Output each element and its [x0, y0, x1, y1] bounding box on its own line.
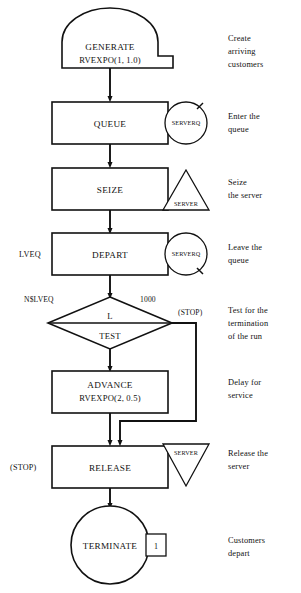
serverq-label-depart: SERVERQ	[172, 250, 201, 257]
test-exit-label: (STOP)	[178, 308, 203, 317]
block-depart[interactable]: DEPART	[52, 233, 168, 275]
advance-name: ADVANCE	[87, 380, 133, 390]
annotation-advance: Delay for service	[228, 378, 261, 400]
annotation-depart-line1: Leave the	[228, 243, 262, 252]
server-label-seize: SERVER	[174, 200, 199, 207]
annotation-queue-line1: Enter the	[228, 112, 260, 121]
test-right-operand: 1000	[140, 295, 156, 304]
block-test[interactable]: L TEST	[48, 297, 172, 349]
test-relation: L	[107, 311, 112, 321]
annotation-terminate-line2: depart	[228, 549, 250, 558]
block-release[interactable]: RELEASE	[52, 446, 168, 488]
annotation-generate-line2: arriving	[228, 47, 256, 56]
queue-name: QUEUE	[94, 119, 127, 129]
flowchart-canvas: GENERATE RVEXPO(1, 1.0) QUEUE SERVERQ SE…	[0, 0, 301, 593]
annotation-terminate: Customers depart	[228, 536, 265, 558]
advance-operands: RVEXPO(2, 0.5)	[79, 393, 141, 403]
seize-name: SEIZE	[97, 185, 123, 195]
entity-seize-server: SERVER	[163, 170, 209, 210]
block-advance[interactable]: ADVANCE RVEXPO(2, 0.5)	[52, 371, 168, 413]
annotation-seize-line1: Seize	[228, 178, 247, 187]
block-generate[interactable]: GENERATE RVEXPO(1, 1.0)	[62, 8, 173, 68]
server-label-release: SERVER	[174, 449, 199, 456]
annotation-generate-line3: customers	[228, 60, 263, 69]
annotation-test: Test for the termination of the run	[228, 306, 269, 341]
block-terminate[interactable]: TERMINATE 1	[71, 506, 166, 584]
test-left-operand: N$LVEQ	[24, 295, 54, 304]
generate-operands: RVEXPO(1, 1.0)	[79, 55, 141, 65]
annotation-depart: Leave the queue	[228, 243, 262, 265]
generate-name: GENERATE	[85, 42, 135, 52]
entity-release-server: SERVER	[163, 444, 209, 486]
annotation-queue-line2: queue	[228, 125, 249, 134]
annotation-release-line1: Release the	[228, 449, 268, 458]
annotation-release-line2: server	[228, 462, 249, 471]
annotation-generate: Create arriving customers	[228, 34, 263, 69]
annotation-seize: Seize the server	[228, 178, 262, 200]
annotation-seize-line2: the server	[228, 191, 262, 200]
serverq-label-queue: SERVERQ	[172, 119, 201, 126]
test-name: TEST	[99, 331, 121, 341]
annotation-advance-line2: service	[228, 391, 253, 400]
annotation-generate-line1: Create	[228, 34, 251, 43]
block-queue[interactable]: QUEUE	[52, 102, 168, 144]
advance-shape	[52, 371, 168, 413]
annotation-test-line1: Test for the	[228, 306, 268, 315]
annotation-advance-line1: Delay for	[228, 378, 261, 387]
terminate-name: TERMINATE	[83, 541, 137, 551]
release-left-label: (STOP)	[10, 463, 37, 472]
entity-queue-serverq: SERVERQ	[165, 102, 207, 144]
gpss-flowchart: GENERATE RVEXPO(1, 1.0) QUEUE SERVERQ SE…	[0, 0, 301, 593]
annotation-test-line2: termination	[228, 319, 269, 328]
depart-left-label: LVEQ	[19, 250, 41, 259]
annotation-queue: Enter the queue	[228, 112, 260, 134]
annotation-terminate-line1: Customers	[228, 536, 265, 545]
annotation-test-line3: of the run	[228, 332, 263, 341]
annotation-release: Release the server	[228, 449, 268, 471]
entity-depart-serverq: SERVERQ	[165, 233, 207, 275]
annotation-depart-line2: queue	[228, 256, 249, 265]
terminate-count: 1	[154, 542, 158, 551]
depart-name: DEPART	[92, 250, 128, 260]
block-seize[interactable]: SEIZE	[52, 168, 168, 210]
release-name: RELEASE	[89, 463, 131, 473]
